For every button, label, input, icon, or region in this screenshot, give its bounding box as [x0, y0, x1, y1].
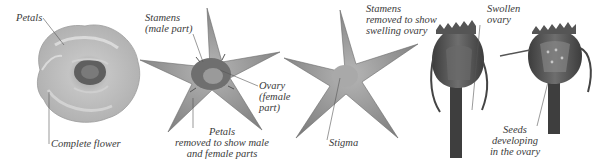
- complete-flower-image: [37, 18, 139, 144]
- label-stamens-male: Stamens (male part): [145, 12, 193, 34]
- label-ovary-female: Ovary (female part): [259, 80, 291, 113]
- seeds-developing-image: [500, 22, 591, 134]
- cropped-edge-marks: [0, 0, 6, 168]
- label-petals-removed: Petals removed to show male and female p…: [162, 126, 282, 159]
- label-seeds-developing: Seeds developing in the ovary: [482, 124, 548, 157]
- label-petals: Petals: [16, 12, 42, 23]
- label-swollen-ovary: Swollen ovary: [487, 3, 520, 25]
- swollen-ovary-image: [431, 20, 487, 158]
- label-stamens-removed: Stamens removed to show swelling ovary: [366, 3, 437, 36]
- label-complete-flower: Complete flower: [51, 138, 121, 149]
- label-stigma: Stigma: [329, 137, 358, 148]
